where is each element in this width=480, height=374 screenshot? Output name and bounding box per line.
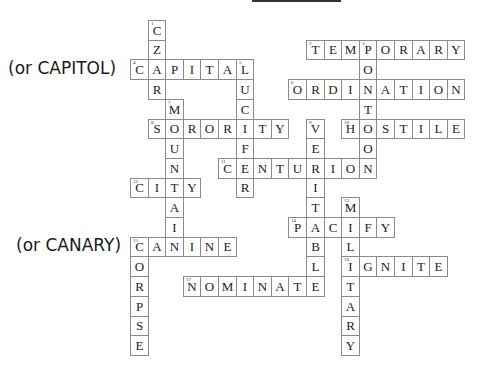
crossword-cell[interactable]: A — [148, 237, 166, 257]
crossword-cell[interactable]: E — [429, 256, 448, 277]
crossword-cell[interactable]: T — [271, 158, 289, 179]
crossword-cell[interactable]: M — [341, 40, 360, 60]
crossword-cell[interactable]: Y — [447, 40, 465, 60]
crossword-cell[interactable]: T — [412, 256, 430, 277]
crossword-cell[interactable]: D — [324, 79, 342, 100]
crossword-cell[interactable]: R — [236, 178, 254, 198]
crossword-cell[interactable]: N — [253, 276, 272, 297]
crossword-cell[interactable]: I — [236, 276, 254, 297]
crossword-cell[interactable]: R — [341, 316, 360, 336]
crossword-cell[interactable]: M7 — [165, 99, 184, 120]
crossword-cell[interactable]: N17 — [183, 276, 201, 297]
crossword-cell[interactable]: N — [200, 237, 219, 257]
crossword-cell[interactable]: U — [288, 158, 307, 179]
crossword-cell[interactable]: S8 — [148, 119, 166, 139]
crossword-cell[interactable]: L — [341, 237, 360, 257]
crossword-cell[interactable]: O — [130, 256, 149, 277]
crossword-cell[interactable]: R — [306, 79, 325, 100]
crossword-cell[interactable]: A — [306, 217, 325, 238]
crossword-cell[interactable]: I — [236, 119, 254, 139]
crossword-cell[interactable]: E — [306, 138, 325, 159]
crossword-cell[interactable]: O — [200, 119, 219, 139]
crossword-cell[interactable]: T — [165, 178, 184, 198]
crossword-cell[interactable]: I — [412, 79, 430, 100]
crossword-cell[interactable]: C — [324, 217, 342, 238]
crossword-cell[interactable]: O — [359, 138, 377, 159]
crossword-cell[interactable]: A — [376, 79, 395, 100]
crossword-cell[interactable]: Y — [341, 335, 360, 356]
crossword-cell[interactable]: G — [359, 256, 377, 277]
crossword-cell[interactable]: I — [412, 119, 430, 139]
crossword-cell[interactable]: P — [130, 296, 149, 317]
crossword-cell[interactable]: E — [236, 158, 254, 179]
crossword-cell[interactable]: I — [324, 158, 342, 179]
crossword-cell[interactable]: E — [130, 335, 149, 356]
crossword-cell[interactable]: N — [165, 237, 184, 257]
crossword-cell[interactable]: O6 — [288, 79, 307, 100]
crossword-cell[interactable]: A — [218, 59, 237, 80]
crossword-cell[interactable]: A — [412, 40, 430, 60]
crossword-cell[interactable]: A — [148, 59, 166, 80]
crossword-cell[interactable]: L — [429, 119, 448, 139]
crossword-cell[interactable]: S — [130, 316, 149, 336]
crossword-cell[interactable]: U — [236, 79, 254, 100]
crossword-cell[interactable]: T — [288, 276, 307, 297]
crossword-cell[interactable]: I — [341, 217, 360, 238]
crossword-cell[interactable]: C — [236, 99, 254, 120]
crossword-cell[interactable]: Z — [148, 40, 166, 60]
crossword-cell[interactable]: V9 — [306, 119, 325, 139]
crossword-cell[interactable]: C4 — [130, 59, 149, 80]
crossword-cell[interactable]: T — [394, 119, 413, 139]
crossword-cell[interactable]: F — [359, 217, 377, 238]
crossword-cell[interactable]: T — [341, 276, 360, 297]
crossword-cell[interactable]: C12 — [130, 178, 149, 198]
crossword-cell[interactable]: I — [306, 178, 325, 198]
crossword-cell[interactable]: M — [218, 276, 237, 297]
crossword-cell[interactable]: N — [359, 158, 377, 179]
crossword-cell[interactable]: I — [183, 59, 201, 80]
crossword-cell[interactable]: S — [376, 119, 395, 139]
crossword-cell[interactable]: H10 — [341, 119, 360, 139]
crossword-cell[interactable]: P3 — [359, 40, 377, 60]
crossword-cell[interactable]: O — [359, 59, 377, 80]
crossword-cell[interactable]: O — [429, 79, 448, 100]
crossword-cell[interactable]: R — [394, 40, 413, 60]
crossword-cell[interactable]: R — [429, 40, 448, 60]
crossword-cell[interactable]: C15 — [130, 237, 149, 257]
crossword-cell[interactable]: I — [165, 217, 184, 238]
crossword-cell[interactable]: F — [236, 138, 254, 159]
crossword-cell[interactable]: O — [376, 40, 395, 60]
crossword-cell[interactable]: N — [253, 158, 272, 179]
crossword-cell[interactable]: P — [165, 59, 184, 80]
crossword-cell[interactable]: M13 — [341, 197, 360, 218]
crossword-cell[interactable]: C11 — [218, 158, 237, 179]
crossword-cell[interactable]: O — [165, 119, 184, 139]
crossword-cell[interactable]: O — [341, 158, 360, 179]
crossword-cell[interactable]: Y — [183, 178, 201, 198]
crossword-cell[interactable]: R — [130, 276, 149, 297]
crossword-cell[interactable]: Y — [271, 119, 289, 139]
crossword-cell[interactable]: I — [394, 256, 413, 277]
crossword-cell[interactable]: L — [306, 256, 325, 277]
crossword-cell[interactable]: R — [183, 119, 201, 139]
crossword-cell[interactable]: N — [447, 79, 465, 100]
crossword-cell[interactable]: T — [200, 59, 219, 80]
crossword-cell[interactable]: R — [218, 119, 237, 139]
crossword-cell[interactable]: E — [447, 119, 465, 139]
crossword-cell[interactable]: T2 — [306, 40, 325, 60]
crossword-cell[interactable]: I — [183, 237, 201, 257]
crossword-cell[interactable]: T — [306, 197, 325, 218]
crossword-cell[interactable]: A — [165, 197, 184, 218]
crossword-cell[interactable]: R — [148, 79, 166, 100]
crossword-cell[interactable]: P14 — [288, 217, 307, 238]
crossword-cell[interactable]: I — [341, 79, 360, 100]
crossword-cell[interactable]: T — [359, 99, 377, 120]
crossword-cell[interactable]: N — [165, 158, 184, 179]
crossword-cell[interactable]: O — [359, 119, 377, 139]
crossword-cell[interactable]: A — [271, 276, 289, 297]
crossword-cell[interactable]: E — [218, 237, 237, 257]
crossword-cell[interactable]: N — [359, 79, 377, 100]
crossword-cell[interactable]: T — [394, 79, 413, 100]
crossword-cell[interactable]: E — [306, 276, 325, 297]
crossword-cell[interactable]: L5 — [236, 59, 254, 80]
